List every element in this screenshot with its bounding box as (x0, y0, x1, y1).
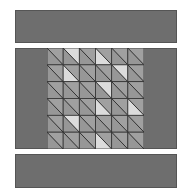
half-square-triangle-grid (47, 48, 144, 149)
top-border-strip (15, 10, 177, 43)
triangle-grid-svg (47, 48, 144, 149)
bottom-border-strip (15, 154, 177, 188)
